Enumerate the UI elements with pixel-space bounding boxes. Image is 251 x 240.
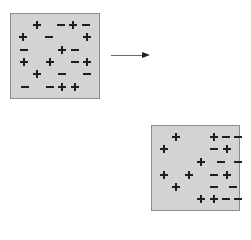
minus-charge-icon [70, 57, 80, 67]
plus-charge-icon [82, 57, 92, 67]
plus-charge-icon [171, 182, 181, 192]
plus-charge-icon [209, 194, 219, 204]
minus-charge-icon [233, 157, 243, 167]
minus-charge-icon [216, 157, 226, 167]
plus-charge-icon [70, 82, 80, 92]
minus-charge-icon [82, 69, 92, 79]
minus-charge-icon [233, 132, 243, 142]
minus-charge-icon [209, 144, 219, 154]
plus-charge-icon [18, 32, 28, 42]
minus-charge-icon [57, 69, 67, 79]
minus-charge-icon [44, 32, 54, 42]
plus-charge-icon [57, 82, 67, 92]
plus-charge-icon [196, 157, 206, 167]
plus-charge-icon [32, 20, 42, 30]
plus-charge-icon [209, 132, 219, 142]
minus-charge-icon [221, 194, 231, 204]
plus-charge-icon [222, 170, 232, 180]
plus-charge-icon [159, 144, 169, 154]
arrow-shaft [111, 55, 143, 56]
plus-charge-icon [32, 69, 42, 79]
minus-charge-icon [209, 170, 219, 180]
plus-charge-icon [82, 32, 92, 42]
minus-charge-icon [233, 194, 243, 204]
plus-charge-icon [222, 144, 232, 154]
plus-charge-icon [45, 57, 55, 67]
minus-charge-icon [221, 132, 231, 142]
plus-charge-icon [159, 170, 169, 180]
minus-charge-icon [56, 20, 66, 30]
minus-charge-icon [20, 82, 30, 92]
minus-charge-icon [70, 45, 80, 55]
minus-charge-icon [81, 20, 91, 30]
transform-arrow [111, 54, 151, 58]
plus-charge-icon [68, 20, 78, 30]
arrow-right-icon [142, 52, 150, 58]
minus-charge-icon [228, 182, 238, 192]
plus-charge-icon [171, 132, 181, 142]
plus-charge-icon [57, 45, 67, 55]
plus-charge-icon [196, 194, 206, 204]
plus-charge-icon [19, 57, 29, 67]
minus-charge-icon [45, 82, 55, 92]
minus-charge-icon [209, 182, 219, 192]
plus-charge-icon [184, 170, 194, 180]
minus-charge-icon [19, 45, 29, 55]
